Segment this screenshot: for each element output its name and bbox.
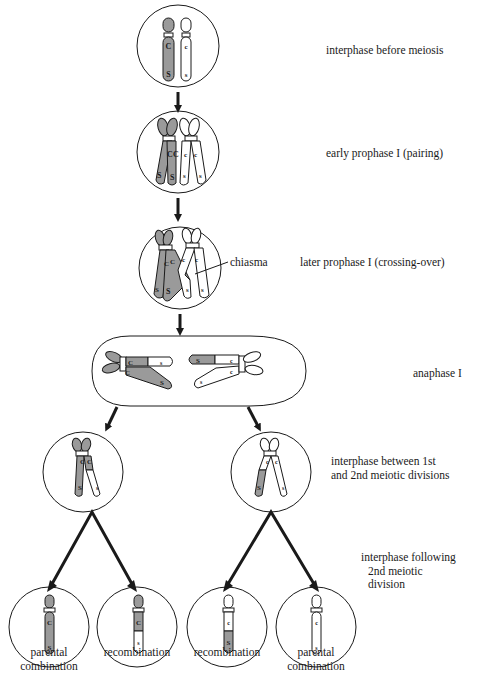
product-3-label: recombination bbox=[182, 645, 272, 659]
svg-text:S: S bbox=[160, 379, 164, 387]
product-1-label-line1: parental bbox=[4, 645, 94, 659]
svg-text:c: c bbox=[315, 620, 318, 626]
svg-text:C: C bbox=[80, 458, 85, 466]
svg-text:S: S bbox=[257, 484, 261, 492]
svg-text:C: C bbox=[170, 258, 175, 266]
svg-text:s: s bbox=[186, 286, 189, 294]
stage2-cell: C C S S c c s s bbox=[137, 111, 219, 193]
stage5-label-line1: interphase between 1st bbox=[331, 454, 436, 468]
svg-text:s: s bbox=[201, 286, 204, 294]
stage1-cell: C S c s bbox=[137, 5, 219, 87]
svg-text:C: C bbox=[164, 260, 169, 268]
svg-text:s: s bbox=[199, 172, 202, 180]
svg-text:c: c bbox=[230, 369, 233, 375]
stage5-label-line2: and 2nd meiotic divisions bbox=[331, 468, 450, 482]
svg-text:C: C bbox=[166, 42, 172, 51]
svg-text:c: c bbox=[184, 43, 187, 51]
svg-text:C: C bbox=[128, 359, 133, 367]
svg-text:S: S bbox=[166, 70, 171, 79]
product-4-label: parental combination bbox=[271, 645, 361, 673]
svg-text:c: c bbox=[184, 151, 187, 159]
svg-text:C: C bbox=[125, 369, 130, 377]
svg-text:C: C bbox=[87, 458, 92, 466]
stage3-cell: C C S S c c s s bbox=[139, 227, 228, 309]
product-2-label-line1: recombination bbox=[92, 645, 182, 659]
svg-text:S: S bbox=[196, 357, 200, 365]
stage5-left-cell: C C S s bbox=[43, 432, 123, 512]
svg-text:C: C bbox=[136, 619, 141, 627]
arrow-4-right bbox=[248, 407, 259, 428]
svg-text:c: c bbox=[230, 358, 233, 364]
svg-text:c: c bbox=[195, 256, 198, 264]
svg-text:S: S bbox=[157, 171, 162, 180]
stage6-label-line1: interphase following bbox=[361, 550, 456, 564]
stage4-cell: C s C S S c c s bbox=[92, 336, 306, 406]
svg-text:c: c bbox=[194, 151, 197, 159]
chromosome-shaded: C S bbox=[163, 18, 174, 81]
svg-text:c: c bbox=[182, 256, 185, 264]
svg-text:C: C bbox=[173, 150, 179, 159]
product-1-label-line2: combination bbox=[4, 659, 94, 673]
product-4-label-line2: combination bbox=[271, 659, 361, 673]
svg-text:S: S bbox=[155, 286, 159, 294]
product-1-label: parental combination bbox=[4, 645, 94, 673]
svg-text:s: s bbox=[183, 172, 186, 180]
branch-left bbox=[47, 512, 137, 592]
stage1-label: interphase before meiosis bbox=[326, 43, 444, 57]
svg-text:C: C bbox=[47, 619, 52, 627]
chromosome-unshaded: c s bbox=[181, 18, 191, 81]
product-2-label: recombination bbox=[92, 645, 182, 659]
product-4-label-line1: parental bbox=[271, 645, 361, 659]
stage3-label: later prophase I (crossing-over) bbox=[300, 255, 445, 269]
svg-text:c: c bbox=[227, 620, 230, 626]
stage6-label-line3: division bbox=[368, 577, 405, 591]
svg-text:c: c bbox=[275, 459, 278, 465]
product-3-label-line1: recombination bbox=[182, 645, 272, 659]
svg-text:c: c bbox=[266, 459, 269, 465]
stage5-right-cell: c c S s bbox=[231, 432, 311, 512]
stage4-label: anaphase I bbox=[413, 366, 462, 380]
chiasma-label: chiasma bbox=[230, 255, 268, 269]
svg-text:S: S bbox=[170, 173, 175, 182]
svg-text:S: S bbox=[78, 484, 82, 492]
arrow-4-left bbox=[107, 407, 117, 428]
branch-right bbox=[223, 512, 319, 592]
svg-text:s: s bbox=[185, 71, 188, 79]
stage6-label-line2: 2nd meiotic bbox=[368, 564, 423, 578]
svg-text:S: S bbox=[166, 287, 171, 296]
stage2-label: early prophase I (pairing) bbox=[326, 146, 443, 160]
